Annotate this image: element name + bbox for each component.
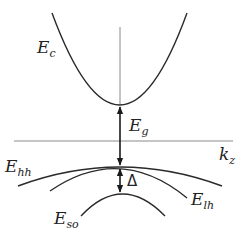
label-heavy-hole: Ehh	[5, 158, 32, 178]
split-off-band-curve	[81, 194, 165, 216]
label-light-hole: Elh	[191, 191, 214, 211]
label-band-gap: Eg	[129, 117, 148, 137]
label-split-off: Eso	[54, 210, 79, 230]
label-spin-orbit-splitting: Δ	[127, 174, 137, 189]
label-conduction-band: Ec	[37, 39, 56, 59]
label-k-axis: kz	[219, 146, 235, 166]
